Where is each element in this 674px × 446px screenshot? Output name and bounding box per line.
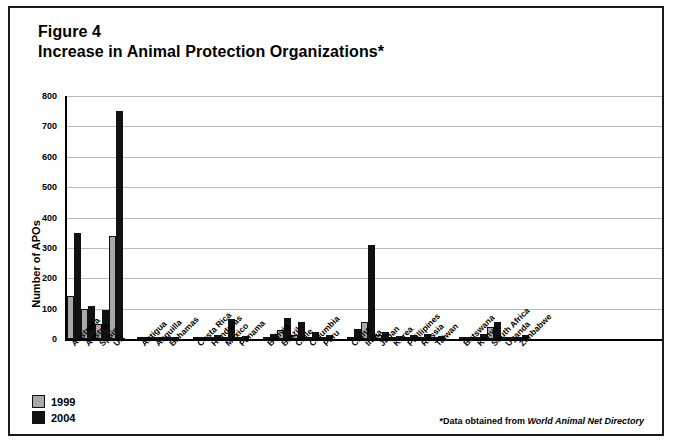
legend-label-2004: 2004: [51, 412, 75, 424]
bar-group: [389, 96, 403, 339]
y-tick-label: 200: [17, 273, 57, 283]
y-tick-label: 400: [17, 213, 57, 223]
group-gap: [333, 96, 347, 339]
bar-y2004: [368, 245, 375, 339]
bar-group: [165, 96, 179, 339]
bar-group: [95, 96, 109, 339]
bar-group: [361, 96, 375, 339]
bar-group: [305, 96, 319, 339]
legend-label-1999: 1999: [51, 396, 75, 408]
group-gap: [249, 96, 263, 339]
bar-group: [263, 96, 277, 339]
legend-item-2004: 2004: [32, 410, 75, 425]
title-block: Figure 4 Increase in Animal Protection O…: [38, 22, 384, 62]
figure-number: Figure 4: [38, 22, 384, 42]
legend: 1999 2004: [32, 394, 75, 426]
bar-group: [319, 96, 333, 339]
bar-group: [501, 96, 515, 339]
footnote: *Data obtained from World Animal Net Dir…: [439, 416, 644, 426]
y-tick-label: 700: [17, 121, 57, 131]
bar-y1999: [109, 236, 116, 339]
bar-group: [431, 96, 445, 339]
footnote-prefix: *Data obtained from: [439, 416, 527, 426]
y-tick-label: 500: [17, 182, 57, 192]
bar-group: [487, 96, 501, 339]
group-gap: [179, 96, 193, 339]
bar-group: [207, 96, 221, 339]
bar-series-container: [67, 96, 662, 339]
bar-group: [277, 96, 291, 339]
bar-group: [417, 96, 431, 339]
bar-group: [235, 96, 249, 339]
bar-group: [347, 96, 361, 339]
bar-group: [137, 96, 151, 339]
bar-group: [193, 96, 207, 339]
bar-group: [81, 96, 95, 339]
bar-group: [403, 96, 417, 339]
bar-y1999: [67, 296, 74, 339]
y-tick-label: 800: [17, 91, 57, 101]
legend-item-1999: 1999: [32, 394, 75, 409]
bar-group: [67, 96, 81, 339]
y-tick-label: 300: [17, 243, 57, 253]
footnote-source: World Animal Net Directory: [527, 416, 644, 426]
bar-group: [459, 96, 473, 339]
y-tick-label: 0: [17, 334, 57, 344]
bar-group: [375, 96, 389, 339]
bar-group: [291, 96, 305, 339]
y-tick-label: 600: [17, 152, 57, 162]
page-title: Increase in Animal Protection Organizati…: [38, 42, 384, 62]
legend-swatch-icon-2004: [32, 411, 45, 424]
bar-group: [473, 96, 487, 339]
group-gap: [123, 96, 137, 339]
bar-group: [515, 96, 529, 339]
y-axis: Number of APOs 0100200300400500600700800: [10, 88, 65, 348]
bar-group: [221, 96, 235, 339]
bar-group: [151, 96, 165, 339]
legend-swatch-icon-1999: [32, 395, 45, 408]
plot-area: [65, 96, 662, 341]
figure-frame: Figure 4 Increase in Animal Protection O…: [8, 6, 664, 436]
bar-y2004: [74, 233, 81, 339]
group-gap: [445, 96, 459, 339]
bar-group: [109, 96, 123, 339]
x-axis-labels: AustraliaAustriaSpainUKAntiguaAnguillaBa…: [65, 341, 660, 401]
y-tick-label: 100: [17, 304, 57, 314]
bar-y2004: [116, 111, 123, 339]
